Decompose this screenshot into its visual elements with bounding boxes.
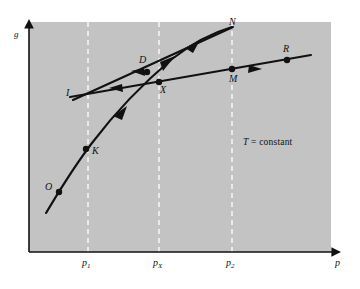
point-label-M: M: [229, 74, 237, 84]
point-label-I: I: [66, 88, 69, 98]
point-label-N: N: [229, 17, 236, 27]
isotherm-note: T = constant: [243, 138, 292, 148]
thermodynamic-gibbs-pressure-diagram: g p p1 pX p2 O K I D X N M R T = constan…: [0, 0, 360, 289]
isotherm-note-value: constant: [259, 137, 292, 147]
x-tick-p2-sub: 2: [231, 262, 235, 270]
point-label-R: R: [283, 44, 289, 54]
x-tick-label-pX: pX: [153, 258, 162, 270]
x-tick-label-p1: p1: [82, 258, 91, 270]
diagram-canvas: [0, 0, 360, 289]
y-axis-label: g: [14, 30, 19, 39]
point-marker-M: [229, 66, 235, 72]
point-label-D: D: [139, 55, 146, 65]
isotherm-note-equals: =: [248, 137, 259, 147]
point-marker-K: [83, 146, 89, 152]
x-tick-pX-sub: X: [158, 262, 162, 270]
point-label-O: O: [45, 182, 52, 192]
x-tick-p1-sub: 1: [87, 262, 91, 270]
point-marker-R: [284, 57, 290, 63]
x-tick-label-p2: p2: [226, 258, 235, 270]
point-marker-D: [144, 69, 150, 75]
point-marker-O: [56, 189, 62, 195]
point-label-K: K: [92, 146, 99, 156]
x-axis-label: p: [335, 258, 340, 268]
point-label-X: X: [160, 85, 166, 95]
